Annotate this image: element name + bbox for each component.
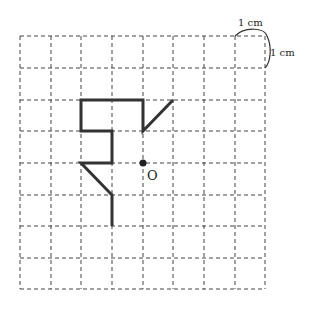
grid-diagram: 1 cm 1 cm O bbox=[0, 0, 311, 310]
center-point-o bbox=[140, 160, 147, 167]
unit-label-vertical: 1 cm bbox=[270, 47, 295, 58]
unit-arc bbox=[235, 29, 270, 68]
center-label: O bbox=[147, 168, 158, 183]
unit-label-horizontal: 1 cm bbox=[238, 17, 263, 28]
